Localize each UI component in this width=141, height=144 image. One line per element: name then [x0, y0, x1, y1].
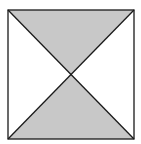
square-diagram: [0, 0, 141, 144]
